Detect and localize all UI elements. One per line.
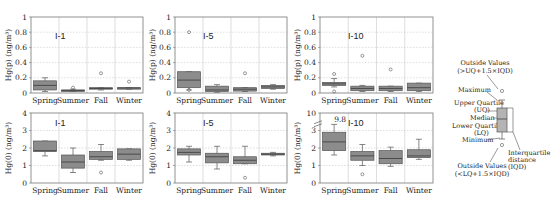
y-axis-label: Hg(p) (ng/m³): [148, 29, 157, 82]
x-tick-label: Fall: [238, 96, 253, 105]
box-fall: [90, 72, 113, 90]
y-axis-label: Hg(0) (ng/m³): [148, 122, 157, 175]
box-fall: [234, 72, 257, 92]
x-tick-label: Spring: [176, 186, 202, 195]
panels: 00.20.40.60.81Hg(p) (ng/m³)I-1SpringSumm…: [4, 13, 433, 196]
y-tick-label: 0.2: [304, 73, 316, 82]
x-tick-label: Spring: [321, 186, 347, 195]
y-tick-label: 1: [311, 161, 316, 170]
panel-bottom-middle: 01234Hg(0) (ng/m³)I-5SpringSummerFallWin…: [148, 109, 287, 196]
panel-title: I-10: [348, 31, 364, 41]
y-tick-label: 3: [22, 126, 27, 135]
panel-top-right: 00.20.40.60.81Hg(p) (ng/m³)I-10SpringSum…: [293, 13, 433, 106]
y-tick-label: 0.4: [159, 58, 171, 67]
y-tick-label: 0: [311, 179, 316, 188]
x-tick-label: Fall: [238, 186, 253, 195]
panel-bottom-right: 012310Hg(0) (ng/m³)I-10SpringSummerFallW…: [293, 109, 433, 196]
y-tick-label: 1: [22, 161, 27, 170]
outlier-marker: [333, 73, 336, 76]
box-winter: [407, 139, 430, 159]
y-tick-label: 2: [22, 144, 27, 153]
boxplot-legend: Outside Values (>UQ+1.5×IQD) Maximum Upp…: [452, 59, 550, 178]
x-tick-label: Spring: [32, 186, 58, 195]
y-tick-label: 3: [311, 126, 316, 135]
panel-top-middle: 00.20.40.60.81Hg(p) (ng/m³)I-5SpringSumm…: [148, 13, 287, 106]
y-tick-label: 10: [306, 109, 316, 118]
outlier-marker: [361, 173, 364, 176]
x-tick-label: Summer: [346, 186, 379, 195]
panel-bottom-left: 01234Hg(0) (ng/m³)I-1SpringSummerFallWin…: [4, 109, 143, 196]
box-fall: [234, 146, 257, 179]
box-fall: [379, 147, 402, 166]
outlier-marker: [100, 171, 103, 174]
y-tick-label: 4: [166, 109, 171, 118]
outlier-marker: [128, 80, 131, 83]
y-tick-label: 0.2: [159, 73, 171, 82]
y-tick-label: 0: [22, 179, 27, 188]
y-tick-label: 0.4: [304, 58, 316, 67]
box-summer: [62, 86, 85, 91]
y-tick-label: 0: [311, 89, 316, 98]
panel-top-left: 00.20.40.60.81Hg(p) (ng/m³)I-1SpringSumm…: [4, 13, 143, 106]
outlier-marker: [72, 86, 75, 89]
x-tick-label: Winter: [260, 96, 286, 105]
box-fall: [90, 145, 113, 175]
y-tick-label: 1: [166, 13, 171, 22]
y-axis-label: Hg(p) (ng/m³): [4, 29, 13, 82]
y-axis-label: Hg(0) (ng/m³): [4, 122, 13, 175]
y-tick-label: 0.2: [15, 73, 27, 82]
legend-outlier-high-icon: [500, 89, 503, 92]
x-tick-label: Spring: [176, 96, 202, 105]
y-tick-label: 0.8: [159, 28, 171, 37]
outlier-marker: [361, 54, 364, 57]
legend-outside-low: Outside Values: [457, 162, 506, 170]
x-tick-label: Summer: [201, 186, 234, 195]
box-spring: [323, 124, 346, 155]
box-winter: [407, 83, 430, 91]
x-tick-label: Fall: [384, 186, 399, 195]
y-tick-label: 0: [166, 89, 171, 98]
y-tick-label: 0.6: [159, 43, 171, 52]
box-winter: [262, 85, 285, 90]
y-tick-label: 0.8: [15, 28, 27, 37]
x-tick-label: Spring: [321, 96, 347, 105]
x-tick-label: Summer: [346, 96, 379, 105]
x-tick-label: Fall: [384, 96, 399, 105]
legend-outside-high: Outside Values: [460, 59, 509, 67]
box-summer: [351, 145, 374, 176]
x-tick-label: Winter: [406, 186, 432, 195]
y-tick-label: 3: [166, 126, 171, 135]
y-tick-label: 2: [166, 144, 171, 153]
x-tick-label: Winter: [116, 96, 142, 105]
x-tick-label: Fall: [94, 96, 109, 105]
legend-box-icon: [497, 100, 520, 150]
box-winter: [262, 152, 285, 156]
box-fall: [379, 68, 402, 92]
y-tick-label: 0: [22, 89, 27, 98]
y-tick-label: 0.4: [15, 58, 27, 67]
boxplot-figure: 00.20.40.60.81Hg(p) (ng/m³)I-1SpringSumm…: [0, 0, 553, 203]
panel-title: I-5: [203, 118, 214, 128]
x-tick-label: Winter: [116, 186, 142, 195]
panel-title: I-1: [55, 31, 66, 41]
y-tick-label: 0.6: [304, 43, 316, 52]
y-tick-label: 0.6: [15, 43, 27, 52]
box-spring: [323, 73, 346, 93]
box-spring: [178, 31, 201, 92]
y-tick-label: 0: [166, 179, 171, 188]
outlier-marker: [244, 72, 247, 75]
y-axis-label: Hg(p) (ng/m³): [293, 29, 302, 82]
legend-uq-abbr: (UQ): [474, 106, 490, 114]
box-summer: [351, 54, 374, 91]
outlier-marker: [244, 176, 247, 179]
box-summer: [62, 148, 85, 173]
y-tick-label: 2: [311, 144, 316, 153]
x-tick-label: Winter: [406, 96, 432, 105]
x-tick-label: Summer: [57, 96, 90, 105]
box-winter: [118, 149, 141, 160]
x-tick-label: Fall: [94, 186, 109, 195]
y-tick-label: 1: [22, 13, 27, 22]
y-tick-label: 1: [311, 13, 316, 22]
max-annotation: 9.8: [334, 115, 346, 124]
x-tick-label: Summer: [57, 186, 90, 195]
